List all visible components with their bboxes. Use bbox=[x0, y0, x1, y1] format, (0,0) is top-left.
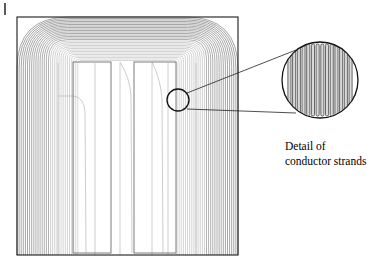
conductor-strand bbox=[344, 44, 347, 116]
flux-plot-svg: Detail of conductor strands bbox=[0, 0, 380, 280]
detail-label-line-2: conductor strands bbox=[285, 155, 367, 167]
conductor-strand bbox=[297, 44, 300, 116]
detail-label-line-1: Detail of bbox=[285, 140, 326, 152]
conductor-strand bbox=[293, 44, 296, 116]
conductor-strand bbox=[326, 44, 329, 116]
conductor-strand bbox=[330, 44, 333, 116]
conductor-strand bbox=[340, 44, 343, 116]
conductor-strand bbox=[316, 44, 319, 116]
conductor-strand bbox=[302, 44, 305, 116]
figure-container: Detail of conductor strands bbox=[0, 0, 380, 280]
conductor-strand bbox=[307, 44, 310, 116]
conductor-strand bbox=[311, 44, 314, 116]
conductor-strand bbox=[335, 44, 338, 116]
conductor-strand bbox=[321, 44, 324, 116]
